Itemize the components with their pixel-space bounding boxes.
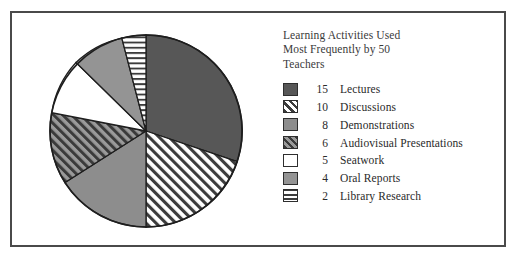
legend-value-lectures: 15 [302, 83, 328, 95]
legend-label-lectures: Lectures [340, 83, 380, 95]
legend-value-demonstrations: 8 [302, 119, 328, 131]
legend-label-seatwork: Seatwork [340, 154, 384, 166]
legend-item-oral-reports: 4 Oral Reports [283, 169, 498, 187]
pie-chart-svg [0, 0, 268, 263]
legend-item-lectures: 15 Lectures [283, 80, 498, 98]
legend-label-demonstrations: Demonstrations [340, 119, 414, 131]
legend-items: 15 Lectures 10 Discussions 8 Demonstrati… [283, 80, 498, 205]
legend: Learning Activities Used Most Frequently… [283, 28, 498, 205]
legend-label-oral-reports: Oral Reports [340, 172, 400, 184]
legend-value-seatwork: 5 [302, 154, 328, 166]
legend-title: Learning Activities Used Most Frequently… [283, 28, 498, 71]
legend-item-demonstrations: 8 Demonstrations [283, 116, 498, 134]
legend-title-line-3: Teachers [283, 57, 498, 71]
legend-label-library-research: Library Research [340, 190, 421, 202]
legend-swatch-oral-reports [283, 172, 298, 185]
legend-label-audiovisual-presentations: Audiovisual Presentations [340, 137, 463, 149]
legend-swatch-lectures [283, 83, 298, 96]
legend-label-discussions: Discussions [340, 101, 396, 113]
legend-title-line-2: Most Frequently by 50 [283, 42, 498, 56]
legend-swatch-demonstrations [283, 118, 298, 131]
legend-value-oral-reports: 4 [302, 172, 328, 184]
legend-value-discussions: 10 [302, 101, 328, 113]
legend-swatch-discussions [283, 100, 298, 113]
legend-swatch-library-research [283, 189, 298, 202]
legend-swatch-seatwork [283, 154, 298, 167]
legend-item-seatwork: 5 Seatwork [283, 151, 498, 169]
legend-value-audiovisual-presentations: 6 [302, 137, 328, 149]
legend-item-discussions: 10 Discussions [283, 98, 498, 116]
legend-item-audiovisual-presentations: 6 Audiovisual Presentations [283, 134, 498, 152]
legend-item-library-research: 2 Library Research [283, 187, 498, 205]
legend-value-library-research: 2 [302, 190, 328, 202]
pie-chart-figure: Learning Activities Used Most Frequently… [0, 0, 521, 263]
legend-swatch-audiovisual-presentations [283, 136, 298, 149]
pie-chart-area [0, 0, 268, 263]
legend-title-line-1: Learning Activities Used [283, 28, 498, 42]
